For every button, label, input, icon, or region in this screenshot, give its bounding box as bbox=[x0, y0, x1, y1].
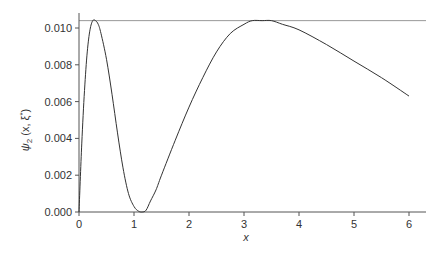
y-tick-label: 0.004 bbox=[44, 132, 72, 144]
y-tick-label: 0.008 bbox=[44, 59, 72, 71]
y-tick-label: 0.010 bbox=[44, 22, 72, 34]
x-tick-label: 4 bbox=[296, 218, 302, 230]
x-tick-label: 3 bbox=[241, 218, 247, 230]
y-axis: 0.0000.0020.0040.0060.0080.010 bbox=[44, 13, 79, 218]
y-tick-label: 0.006 bbox=[44, 96, 72, 108]
y-label-close: ) bbox=[19, 109, 31, 113]
y-label-args: (x, ξ bbox=[19, 115, 31, 138]
x-tick-label: 6 bbox=[406, 218, 412, 230]
y-tick-label: 0.002 bbox=[44, 169, 72, 181]
x-tick-label: 5 bbox=[351, 218, 357, 230]
data-line bbox=[79, 20, 409, 212]
y-tick-label: 0.000 bbox=[44, 206, 72, 218]
y-label-psi: ψ bbox=[19, 143, 31, 151]
x-tick-label: 0 bbox=[76, 218, 82, 230]
x-axis: 0123456 bbox=[76, 212, 426, 230]
x-axis-label: x bbox=[242, 231, 249, 243]
x-tick-label: 2 bbox=[186, 218, 192, 230]
chart: 0.0000.0020.0040.0060.0080.010 0123456 x… bbox=[0, 0, 442, 258]
y-axis-label: ψ2 (x, ξ*) bbox=[18, 109, 34, 152]
x-tick-label: 1 bbox=[131, 218, 137, 230]
